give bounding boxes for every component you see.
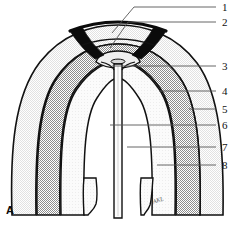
anatomical-section-diagram [0,0,237,239]
label-2: 2 [222,17,228,28]
label-5: 5 [222,104,228,115]
panel-letter-a: A [6,204,14,216]
figure-panel-a: 1 2 3 4 5 6 7 8 A AKL [0,0,237,239]
label-4: 4 [222,86,228,97]
label-3: 3 [222,61,228,72]
label-8: 8 [222,160,228,171]
right-lobe-tip [140,178,153,215]
canal-orifice-lumen [111,59,125,64]
left-lobe-tip [83,178,97,215]
label-1: 1 [222,2,228,13]
label-6: 6 [222,120,228,131]
label-7: 7 [222,142,228,153]
